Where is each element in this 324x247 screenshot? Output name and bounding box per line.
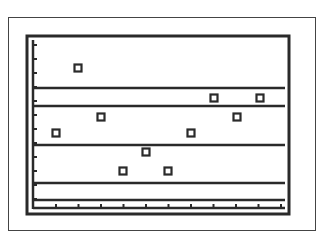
data-point-marker <box>143 149 150 156</box>
data-point-marker <box>188 130 195 137</box>
data-point-marker <box>75 65 82 72</box>
data-point-marker <box>120 168 127 175</box>
reference-lines <box>33 88 285 200</box>
data-point-marker <box>165 168 172 175</box>
data-points <box>53 65 264 175</box>
scatter-plot <box>0 0 324 247</box>
data-point-marker <box>53 130 60 137</box>
data-point-marker <box>234 114 241 121</box>
data-point-marker <box>98 114 105 121</box>
plot-border <box>27 36 289 214</box>
data-point-marker <box>257 95 264 102</box>
data-point-marker <box>211 95 218 102</box>
